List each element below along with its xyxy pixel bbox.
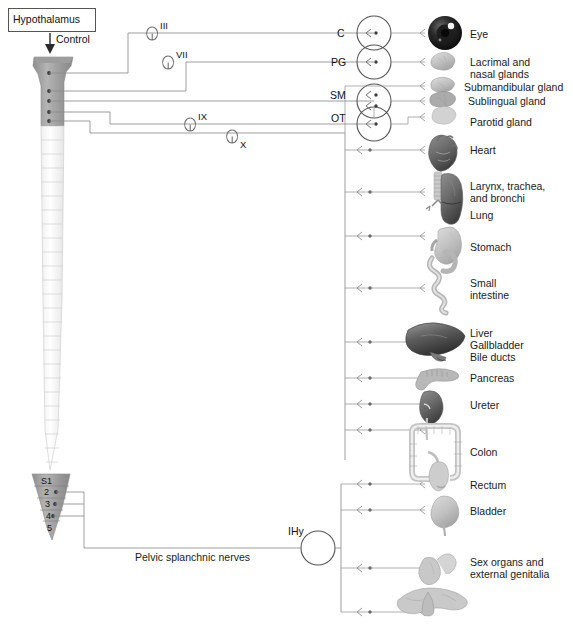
pelvic-branch-synapse-dots (368, 482, 371, 613)
cranial-nerve-label-X: X (240, 139, 246, 150)
ganglion-IHy (301, 531, 335, 565)
spinal-segment-label-2: 2 (44, 487, 49, 497)
sublingual-gland-icon (430, 91, 456, 107)
target-label-sublingual-gland: Sublingual gland (468, 95, 546, 107)
hypothalamus-label: Hypothalamus (13, 13, 80, 25)
ganglion-circles (301, 16, 391, 565)
heart-icon (429, 135, 458, 171)
spinal-segment-label-4: 4 (46, 511, 51, 521)
target-label-ureter: Ureter (470, 399, 499, 411)
parotid-gland-icon (432, 106, 456, 124)
target-label-bladder: Bladder (470, 505, 506, 517)
target-label-submandibular-gland: Submandibular gland (464, 81, 563, 93)
spinal-segment-label-5: 5 (47, 523, 52, 533)
ganglion-label-PG: PG (331, 56, 346, 68)
ganglion-label-IHy: IHy (288, 525, 304, 537)
spinal-segment-label-3: 3 (45, 499, 50, 509)
target-label-sex-organs-external-genitalia: Sex organs and external genitalia (470, 556, 549, 580)
cranial-nerve-pathways (49, 33, 374, 460)
target-label-small-intestine: Small intestine (470, 277, 509, 301)
target-label-larynx-trachea-bronchi: Larynx, trachea, and bronchi (470, 180, 545, 204)
target-label-colon: Colon (470, 446, 497, 458)
sex-organs-icon (419, 554, 457, 585)
pelvic-branch-arrows (357, 480, 362, 616)
vagal-branch-arrows (357, 146, 362, 434)
cranial-nerve-label-VII: VII (176, 49, 188, 60)
pelvic-splanchnic-nerves-label: Pelvic splanchnic nerves (135, 551, 250, 563)
cranial-nerve-hooks (147, 27, 238, 144)
cranial-nerve-label-IX: IX (198, 111, 207, 122)
airway-icon (426, 172, 443, 211)
target-label-eye: Eye (470, 28, 488, 40)
target-label-heart: Heart (470, 144, 496, 156)
target-label-stomach: Stomach (470, 241, 511, 253)
target-label-pancreas: Pancreas (470, 372, 514, 384)
target-label-lung: Lung (470, 209, 493, 221)
cranial-nerve-label-III: III (160, 20, 168, 31)
target-label-rectum: Rectum (470, 479, 506, 491)
control-arrow (45, 33, 55, 54)
pancreas-icon (416, 369, 459, 390)
ganglion-label-C: C (337, 27, 345, 39)
target-label-parotid-gland: Parotid gland (470, 116, 532, 128)
ganglion-label-OT: OT (331, 112, 346, 124)
bladder-icon (431, 496, 459, 536)
pelvic-splanchnic-pathways (53, 484, 341, 612)
rectum-icon (429, 462, 449, 491)
lung-icon (441, 173, 463, 224)
female-reproductive-icon (397, 588, 467, 616)
brainstem-spinal-cord (32, 57, 73, 540)
vagal-branch-terminals (420, 146, 425, 434)
target-label-liver-gallbladder-bile-ducts: Liver Gallbladder Bile ducts (470, 327, 524, 363)
liver-icon (406, 323, 465, 361)
spinal-segment-label-S1: S1 (41, 476, 52, 486)
submandibular-gland-icon (431, 77, 455, 92)
parasympathetic-diagram (0, 0, 573, 625)
lacrimal-gland-icon (431, 52, 455, 70)
postganglionic-head-terminals (420, 29, 425, 121)
eye-icon (428, 16, 462, 50)
vagal-branch-synapse-dots (368, 148, 371, 431)
figure-canvas: Hypothalamus Control III VII IX X C PG S… (0, 0, 573, 625)
control-arrow-label: Control (56, 33, 90, 45)
target-label-lacrimal-nasal-glands: Lacrimal and nasal glands (470, 56, 530, 80)
ganglion-label-SM: SM (330, 89, 346, 101)
